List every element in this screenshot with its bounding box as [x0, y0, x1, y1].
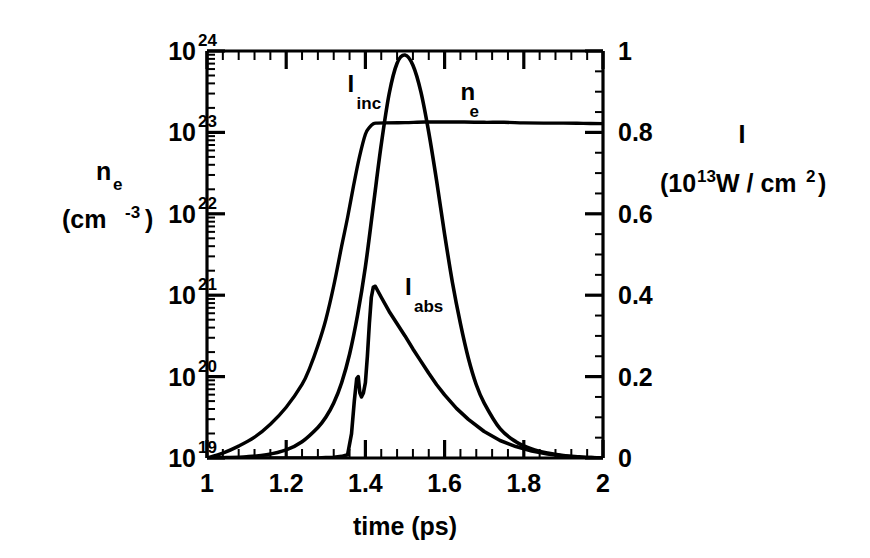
left-ticklabel-base: 10	[168, 444, 196, 472]
left-ticklabel-base: 10	[168, 200, 196, 228]
left-axis-units-open: (cm	[62, 205, 106, 233]
left-axis-units-exponent: -3	[125, 203, 140, 222]
annotation-i-abs-base: I	[405, 273, 412, 300]
left-ticklabel-exponent: 21	[198, 275, 217, 294]
left-axis-units-close: )	[145, 205, 153, 233]
right-ticklabel: 1	[618, 37, 632, 65]
annotation-i-inc-sub: inc	[357, 94, 382, 113]
right-ticklabel: 0.6	[618, 200, 653, 228]
left-ticklabel-base: 10	[168, 281, 196, 309]
annotation-i-inc-base: I	[348, 70, 355, 97]
left-ticklabel-exponent: 23	[198, 112, 217, 131]
right-axis-title-main: I	[739, 120, 746, 148]
x-ticklabel: 2	[596, 469, 610, 497]
annotation-i-abs-sub: abs	[414, 297, 443, 316]
chart-svg: 101910201021102210231024 00.20.40.60.81 …	[0, 0, 870, 558]
left-ticklabel-base: 10	[168, 118, 196, 146]
left-ticklabel-exponent: 24	[198, 31, 217, 50]
left-axis-title-sub: e	[113, 175, 122, 194]
x-axis-title: time (ps)	[353, 512, 457, 540]
left-axis-title-main: n	[96, 157, 111, 185]
right-ticklabel: 0.4	[618, 281, 653, 309]
right-axis-units-exponent2: 2	[806, 167, 815, 186]
left-ticklabel-exponent: 20	[198, 357, 217, 376]
x-ticklabel: 1.8	[506, 469, 541, 497]
x-ticklabel: 1	[200, 469, 214, 497]
x-ticklabel: 1.6	[427, 469, 462, 497]
figure-container: 101910201021102210231024 00.20.40.60.81 …	[0, 0, 870, 558]
left-ticklabel-base: 10	[168, 37, 196, 65]
left-ticklabel-exponent: 22	[198, 194, 217, 213]
right-axis-units-mid: W / cm	[716, 169, 797, 197]
right-axis-units-open: (10	[660, 169, 696, 197]
left-ticklabel-exponent: 19	[198, 438, 217, 457]
x-ticklabel: 1.4	[348, 469, 383, 497]
left-ticklabel-base: 10	[168, 363, 196, 391]
right-axis-units-exponent: 13	[697, 167, 716, 186]
right-ticklabel: 0.2	[618, 363, 653, 391]
annotation-n-e-base: n	[460, 78, 475, 105]
x-ticklabel: 1.2	[269, 469, 304, 497]
right-ticklabel: 0.8	[618, 118, 653, 146]
annotation-n-e-sub: e	[469, 102, 478, 121]
right-ticklabel: 0	[618, 444, 632, 472]
right-axis-units-close: )	[818, 169, 826, 197]
